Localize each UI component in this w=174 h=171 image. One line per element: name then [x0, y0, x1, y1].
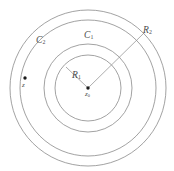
label-exterior-z: z	[22, 82, 25, 89]
label-center-z0-subscript: 0	[88, 93, 90, 98]
label-center-z0: z0	[85, 91, 90, 98]
label-circle-c2-subscript: 2	[42, 39, 45, 45]
label-circle-c1-subscript: 1	[90, 34, 93, 40]
label-circle-c2: C2	[36, 36, 45, 46]
label-radius-r2: R2	[143, 26, 152, 36]
label-exterior-z-letter: z	[22, 81, 25, 89]
exterior-point-z	[23, 76, 26, 79]
label-circle-c1: C1	[84, 31, 93, 41]
label-radius-r1-subscript: 1	[78, 74, 81, 80]
label-radius-r2-letter: R	[143, 25, 149, 35]
radius-line-r2	[88, 33, 144, 88]
label-radius-r2-subscript: 2	[149, 29, 152, 35]
label-radius-r1: R1	[72, 71, 81, 81]
figure-canvas: C2 C1 R2 R1 z0 z	[0, 0, 174, 171]
label-radius-r1-letter: R	[72, 70, 78, 80]
